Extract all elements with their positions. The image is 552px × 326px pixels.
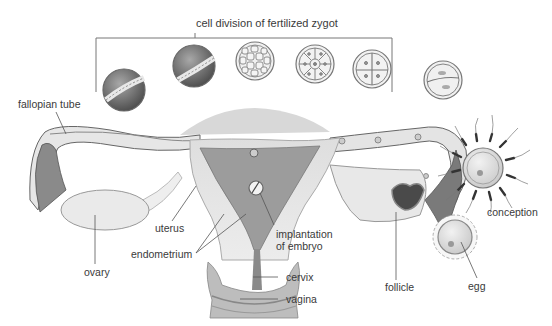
label-egg: egg bbox=[468, 280, 486, 292]
label-cervix: cervix bbox=[286, 271, 313, 283]
zygote-stage-2-icon bbox=[173, 45, 215, 87]
zygote-stage-6-icon bbox=[424, 61, 462, 99]
left-ovary bbox=[61, 190, 149, 230]
label-implantation-line2: of embryo bbox=[276, 240, 323, 252]
zygote-stage-3-icon bbox=[236, 42, 274, 80]
label-implantation-line1: implantation bbox=[276, 228, 333, 240]
zygote-stage-1-icon bbox=[103, 69, 145, 111]
reproductive-diagram bbox=[0, 0, 552, 326]
label-fallopian-tube: fallopian tube bbox=[18, 98, 80, 110]
egg-icon bbox=[433, 215, 477, 259]
label-conception: conception bbox=[487, 206, 538, 218]
label-follicle: follicle bbox=[385, 281, 414, 293]
uterus-fundus bbox=[180, 108, 330, 135]
label-ovary: ovary bbox=[84, 266, 110, 278]
label-vagina: vagina bbox=[286, 293, 317, 305]
zygote-stage-5-icon bbox=[353, 50, 391, 88]
zygote-stage-4-icon bbox=[296, 45, 334, 83]
label-endometrium: endometrium bbox=[131, 248, 192, 260]
zygote-in-uterus-icon bbox=[250, 149, 258, 157]
implantation-embryo-icon bbox=[249, 181, 263, 195]
label-uterus: uterus bbox=[155, 222, 184, 234]
diagram-title: cell division of fertilized zygot bbox=[196, 17, 338, 29]
